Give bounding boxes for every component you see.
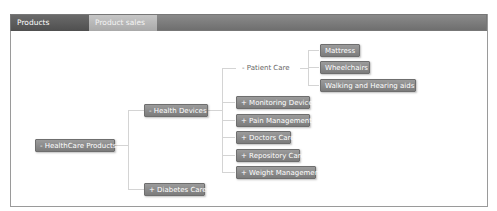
- node-walking-hearing-aids[interactable]: Walking and Hearing aids: [320, 79, 416, 92]
- connector: [128, 110, 129, 190]
- node-health-devices[interactable]: - Health Devices: [144, 104, 208, 117]
- connector: [308, 50, 309, 86]
- node-repository-care[interactable]: + Repository Care: [236, 149, 300, 162]
- connector: [222, 120, 235, 121]
- tab-products-hierarchy[interactable]: Products Hierarchy: [11, 15, 89, 31]
- tab-product-sales[interactable]: Product sales: [89, 15, 157, 31]
- connector: [222, 137, 235, 138]
- connector: [222, 172, 235, 173]
- connector: [308, 50, 319, 51]
- node-weight-management[interactable]: + Weight Management: [236, 166, 316, 179]
- connector: [308, 85, 319, 86]
- connector: [222, 155, 235, 156]
- connector: [222, 102, 235, 103]
- node-doctors-care[interactable]: + Doctors Care: [236, 131, 291, 144]
- connector: [114, 145, 128, 146]
- node-diabetes-care[interactable]: + Diabetes Care: [144, 183, 205, 196]
- node-pain-managements[interactable]: + Pain Managements: [236, 114, 310, 127]
- connector: [128, 189, 144, 190]
- connector: [308, 67, 319, 68]
- node-monitoring-devices[interactable]: + Monitoring Devices: [236, 96, 310, 109]
- connector: [208, 110, 222, 111]
- connector: [300, 68, 308, 69]
- connector: [128, 110, 144, 111]
- connector: [222, 68, 236, 69]
- node-healthcare-products[interactable]: - HealthCare Products: [35, 139, 115, 152]
- tab-bar: Products Hierarchy Product sales: [10, 14, 487, 31]
- node-wheelchairs[interactable]: Wheelchairs: [320, 61, 370, 74]
- node-mattress[interactable]: Mattress: [320, 44, 360, 57]
- node-patient-care[interactable]: - Patient Care: [238, 62, 300, 75]
